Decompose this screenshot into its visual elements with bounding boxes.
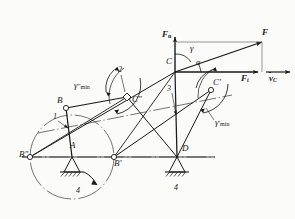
link-1-leader bbox=[58, 121, 68, 128]
line-Bdprime-to-F bbox=[30, 72, 175, 157]
force-label-Ft-subscript: t bbox=[247, 77, 249, 83]
crank-rotation-arrow-icon bbox=[84, 172, 97, 185]
joint-label-C-double-prime: C″ bbox=[132, 95, 142, 104]
link-number-2: 2 bbox=[118, 66, 122, 74]
angle-label-gamma-min-prime: γ′min bbox=[215, 118, 229, 127]
coupler-alt-Bprime-to-Cprime bbox=[114, 90, 211, 157]
rocker-alt-position-D-Cdprime bbox=[127, 97, 177, 157]
force-label-Fn-subscript: n bbox=[168, 33, 171, 39]
velocity-label-vC-symbol: v bbox=[269, 73, 273, 83]
joint-label-A: A bbox=[70, 141, 76, 150]
force-label-F: F bbox=[262, 28, 268, 37]
angle-gamma-arc bbox=[175, 54, 191, 62]
joint-label-C: C bbox=[166, 57, 172, 66]
joint-label-D: D bbox=[182, 144, 189, 153]
angle-label-alpha: α bbox=[196, 59, 200, 67]
force-F-vector bbox=[175, 42, 262, 72]
gamma-dprime-subscript: min bbox=[80, 84, 89, 90]
force-label-Ft: Ft bbox=[241, 74, 249, 83]
link-2-leader bbox=[121, 75, 125, 92]
link-number-3: 3 bbox=[167, 85, 171, 93]
joint-label-C-prime: C′ bbox=[213, 78, 221, 87]
joint-label-B-double-prime: B″ bbox=[19, 150, 28, 159]
velocity-label-vC: vC bbox=[269, 74, 277, 83]
ground-support-D bbox=[165, 157, 189, 177]
angle-label-gamma: γ bbox=[190, 44, 194, 53]
joint-label-B: B bbox=[57, 96, 63, 105]
link-number-1: 1 bbox=[53, 113, 57, 121]
force-label-Fn-symbol: F bbox=[162, 29, 168, 39]
angle-label-gamma-min-double-prime: γ″min bbox=[74, 81, 90, 90]
mechanism-diagram-svg bbox=[0, 0, 295, 219]
gamma-prime-subscript: min bbox=[220, 121, 229, 127]
force-label-Fn: Fn bbox=[162, 30, 171, 39]
velocity-label-vC-subscript: C bbox=[273, 77, 277, 83]
ground-support-A bbox=[60, 157, 84, 177]
ground-number-right: 4 bbox=[174, 184, 178, 192]
figure-root: B″ B′ B A C C″ C′ D 1 2 3 4 4 Fn F Ft vC… bbox=[0, 0, 295, 219]
ground-number-left: 4 bbox=[76, 187, 80, 195]
joint-label-B-prime: B′ bbox=[114, 159, 121, 168]
